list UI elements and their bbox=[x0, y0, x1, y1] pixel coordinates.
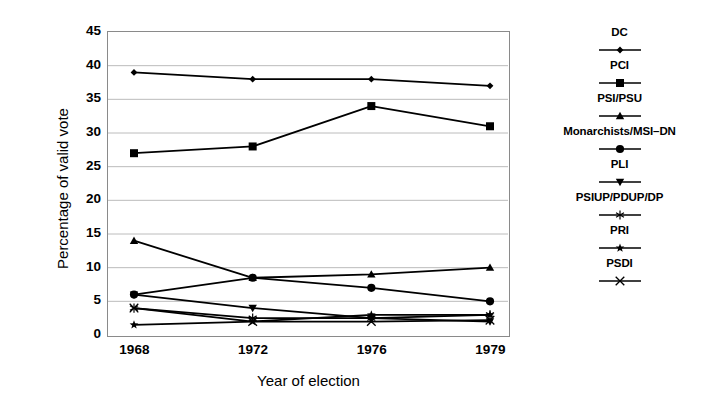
y-tick-label: 35 bbox=[61, 91, 101, 105]
legend-marker-x-cross bbox=[597, 273, 643, 289]
y-tick-label: 0 bbox=[61, 327, 101, 341]
y-tick-label: 40 bbox=[61, 58, 101, 72]
y-tick-label: 25 bbox=[61, 159, 101, 173]
y-tick-label: 15 bbox=[61, 226, 101, 240]
data-point-triangle-up bbox=[130, 237, 138, 244]
legend-label: PSIUP/PDUP/DP bbox=[516, 191, 723, 204]
data-point-square bbox=[486, 122, 494, 130]
legend-symbol bbox=[516, 237, 723, 257]
series-dc bbox=[131, 69, 494, 89]
data-point-star bbox=[615, 243, 624, 251]
x-tick-label: 1979 bbox=[460, 343, 520, 357]
legend-label: PSI/PSU bbox=[516, 92, 723, 105]
plot-area bbox=[107, 31, 510, 337]
legend-entry-pri[interactable]: PRI bbox=[516, 224, 723, 257]
legend-symbol bbox=[516, 138, 723, 158]
legend-entry-pci[interactable]: PCI bbox=[516, 59, 723, 92]
legend-symbol bbox=[516, 105, 723, 125]
series-pci bbox=[130, 102, 494, 157]
x-tick-label: 1976 bbox=[342, 343, 402, 357]
data-point-square bbox=[249, 142, 257, 150]
y-axis-tick-labels: 051015202530354045 bbox=[55, 0, 101, 413]
y-tick-label: 5 bbox=[61, 293, 101, 307]
y-tick-label: 10 bbox=[61, 260, 101, 274]
legend-label: PCI bbox=[516, 59, 723, 72]
data-point-circle bbox=[486, 297, 494, 305]
legend-marker-triangle-up bbox=[597, 108, 643, 124]
legend-symbol bbox=[516, 72, 723, 92]
legend-entry-psiup-pdup-dp[interactable]: PSIUP/PDUP/DP bbox=[516, 191, 723, 224]
data-point-square bbox=[367, 102, 375, 110]
series-psi-psu bbox=[130, 237, 494, 281]
data-point-diamond bbox=[616, 46, 623, 53]
legend-entry-psi-psu[interactable]: PSI/PSU bbox=[516, 92, 723, 125]
y-tick-label: 30 bbox=[61, 125, 101, 139]
y-tick-label: 20 bbox=[61, 192, 101, 206]
legend-symbol bbox=[516, 171, 723, 191]
legend-marker-star bbox=[597, 240, 643, 256]
data-point-diamond bbox=[131, 69, 138, 76]
legend-label: DC bbox=[516, 26, 723, 39]
legend-marker-asterisk bbox=[597, 207, 643, 223]
legend-entry-dc[interactable]: DC bbox=[516, 26, 723, 59]
series-line bbox=[134, 278, 490, 302]
series-line bbox=[134, 106, 490, 153]
legend-label: Monarchists/MSI–DN bbox=[516, 125, 723, 138]
chart-figure: Percentage of valid vote 051015202530354… bbox=[0, 0, 723, 413]
legend-marker-triangle-down bbox=[597, 174, 643, 190]
data-point-star bbox=[130, 320, 139, 328]
legend-label: PLI bbox=[516, 158, 723, 171]
data-point-diamond bbox=[249, 76, 256, 83]
x-tick-label: 1968 bbox=[104, 343, 164, 357]
chart-legend: DCPCIPSI/PSUMonarchists/MSI–DNPLIPSIUP/P… bbox=[516, 26, 723, 356]
legend-symbol bbox=[516, 39, 723, 59]
legend-entry-monarchists-msi-dn[interactable]: Monarchists/MSI–DN bbox=[516, 125, 723, 158]
legend-entry-psdi[interactable]: PSDI bbox=[516, 257, 723, 290]
x-axis-tick-labels: 1968197219761979 bbox=[107, 343, 510, 363]
y-tick-label: 45 bbox=[61, 24, 101, 38]
series-line bbox=[134, 241, 490, 278]
plot-svg bbox=[108, 32, 508, 335]
legend-entry-pli[interactable]: PLI bbox=[516, 158, 723, 191]
data-point-circle bbox=[367, 284, 375, 292]
series-line bbox=[134, 72, 490, 85]
data-point-circle bbox=[249, 274, 257, 282]
legend-label: PRI bbox=[516, 224, 723, 237]
data-point-diamond bbox=[487, 82, 494, 89]
data-point-diamond bbox=[368, 76, 375, 83]
data-point-circle bbox=[615, 145, 623, 153]
x-axis-title: Year of election bbox=[107, 372, 510, 389]
legend-label: PSDI bbox=[516, 257, 723, 270]
legend-marker-square bbox=[597, 75, 643, 91]
legend-marker-diamond bbox=[597, 42, 643, 58]
legend-symbol bbox=[516, 270, 723, 290]
legend-symbol bbox=[516, 204, 723, 224]
legend-marker-circle bbox=[597, 141, 643, 157]
data-point-square bbox=[130, 149, 138, 157]
data-point-square bbox=[616, 79, 624, 87]
x-tick-label: 1972 bbox=[223, 343, 283, 357]
